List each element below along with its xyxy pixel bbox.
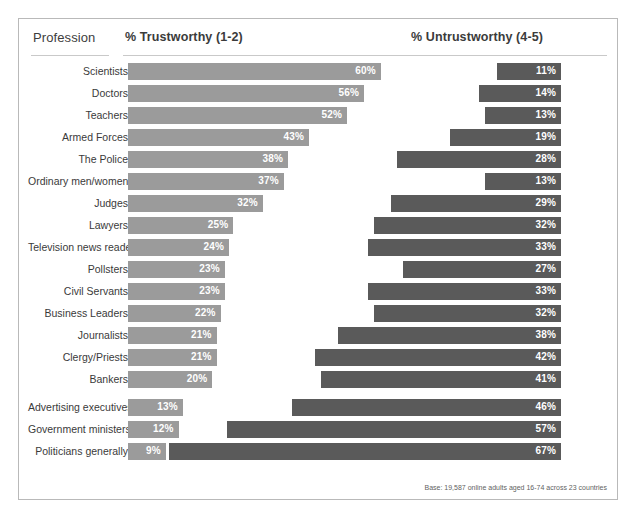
- bar-value-trustworthy: 21%: [191, 329, 212, 340]
- row-label-profession: Politicians generally: [28, 444, 128, 459]
- bar-untrustworthy: 11%: [497, 63, 561, 80]
- bar-untrustworthy: 13%: [485, 173, 561, 190]
- chart-row: Government ministers12%57%: [19, 419, 617, 441]
- bar-untrustworthy: 67%: [169, 443, 561, 460]
- bar-value-untrustworthy: 38%: [535, 329, 556, 340]
- bar-value-untrustworthy: 32%: [535, 219, 556, 230]
- bar-untrustworthy: 42%: [315, 349, 561, 366]
- row-label-profession: Journalists: [28, 328, 128, 343]
- bar-value-trustworthy: 32%: [237, 197, 258, 208]
- bar-value-trustworthy: 52%: [322, 109, 343, 120]
- chart-row: The Police38%28%: [19, 149, 617, 171]
- chart-row: Judges32%29%: [19, 193, 617, 215]
- bar-value-trustworthy: 12%: [153, 423, 174, 434]
- row-label-profession: Pollsters: [28, 262, 128, 277]
- bar-untrustworthy: 19%: [450, 129, 561, 146]
- bar-value-untrustworthy: 41%: [535, 373, 556, 384]
- row-label-profession: Teachers: [28, 108, 128, 123]
- bar-value-untrustworthy: 27%: [535, 263, 556, 274]
- bar-value-untrustworthy: 33%: [535, 241, 556, 252]
- bar-trustworthy: 25%: [128, 217, 233, 234]
- bar-value-untrustworthy: 46%: [535, 401, 556, 412]
- header-divider-right: [123, 55, 607, 56]
- bar-value-untrustworthy: 29%: [535, 197, 556, 208]
- bar-trustworthy: 22%: [128, 305, 221, 322]
- bar-value-trustworthy: 38%: [263, 153, 284, 164]
- bar-value-trustworthy: 13%: [157, 401, 178, 412]
- row-label-profession: Bankers: [28, 372, 128, 387]
- bar-untrustworthy: 29%: [391, 195, 561, 212]
- bar-trustworthy: 60%: [128, 63, 381, 80]
- chart-row: Bankers20%41%: [19, 369, 617, 391]
- chart-row: Lawyers25%32%: [19, 215, 617, 237]
- chart-row: Pollsters23%27%: [19, 259, 617, 281]
- row-label-profession: Armed Forces: [28, 130, 128, 145]
- bar-untrustworthy: 57%: [227, 421, 561, 438]
- chart-row: Politicians generally9%67%: [19, 441, 617, 463]
- bar-value-trustworthy: 9%: [146, 445, 161, 456]
- bar-value-trustworthy: 37%: [258, 175, 279, 186]
- chart-row: Teachers52%13%: [19, 105, 617, 127]
- bar-value-untrustworthy: 28%: [535, 153, 556, 164]
- bar-value-untrustworthy: 13%: [535, 175, 556, 186]
- bar-untrustworthy: 28%: [397, 151, 561, 168]
- bar-trustworthy: 23%: [128, 261, 225, 278]
- bar-value-untrustworthy: 57%: [535, 423, 556, 434]
- bar-value-trustworthy: 24%: [204, 241, 225, 252]
- row-label-profession: Doctors: [28, 86, 128, 101]
- bar-value-trustworthy: 60%: [355, 65, 376, 76]
- chart-row: Ordinary men/women37%13%: [19, 171, 617, 193]
- bar-value-trustworthy: 56%: [338, 87, 359, 98]
- column-header-untrustworthy: % Untrustworthy (4-5): [411, 30, 543, 44]
- bar-untrustworthy: 38%: [338, 327, 561, 344]
- row-label-profession: Scientists: [28, 64, 128, 79]
- bar-value-untrustworthy: 13%: [535, 109, 556, 120]
- chart-row: Business Leaders22%32%: [19, 303, 617, 325]
- row-label-profession: Civil Servants: [28, 284, 128, 299]
- chart-row: Advertising executives13%46%: [19, 397, 617, 419]
- bar-value-trustworthy: 22%: [195, 307, 216, 318]
- bar-trustworthy: 52%: [128, 107, 347, 124]
- bar-trustworthy: 20%: [128, 371, 212, 388]
- bar-untrustworthy: 41%: [321, 371, 561, 388]
- bar-trustworthy: 38%: [128, 151, 288, 168]
- bar-untrustworthy: 33%: [368, 239, 561, 256]
- header-divider-left: [31, 55, 109, 56]
- bar-trustworthy: 21%: [128, 327, 217, 344]
- row-label-profession: Advertising executives: [28, 400, 128, 415]
- row-label-profession: Lawyers: [28, 218, 128, 233]
- bar-untrustworthy: 32%: [374, 305, 561, 322]
- bar-trustworthy: 23%: [128, 283, 225, 300]
- bar-untrustworthy: 27%: [403, 261, 561, 278]
- column-header-trustworthy: % Trustworthy (1-2): [125, 30, 243, 44]
- bar-trustworthy: 13%: [128, 399, 183, 416]
- row-label-profession: Television news readers: [28, 240, 128, 255]
- bar-value-trustworthy: 21%: [191, 351, 212, 362]
- chart-row: Clergy/Priests21%42%: [19, 347, 617, 369]
- chart-row: Armed Forces43%19%: [19, 127, 617, 149]
- bar-value-untrustworthy: 33%: [535, 285, 556, 296]
- bar-trustworthy: 24%: [128, 239, 229, 256]
- bar-value-trustworthy: 23%: [199, 285, 220, 296]
- bar-trustworthy: 56%: [128, 85, 364, 102]
- bar-untrustworthy: 33%: [368, 283, 561, 300]
- bar-value-trustworthy: 23%: [199, 263, 220, 274]
- bar-value-untrustworthy: 42%: [535, 351, 556, 362]
- bar-trustworthy: 21%: [128, 349, 217, 366]
- bar-untrustworthy: 13%: [485, 107, 561, 124]
- bar-trustworthy: 32%: [128, 195, 263, 212]
- row-label-profession: Judges: [28, 196, 128, 211]
- chart-row: Doctors56%14%: [19, 83, 617, 105]
- bar-trustworthy: 12%: [128, 421, 179, 438]
- chart-row: Television news readers24%33%: [19, 237, 617, 259]
- bar-value-untrustworthy: 32%: [535, 307, 556, 318]
- bar-value-trustworthy: 43%: [284, 131, 305, 142]
- row-label-profession: The Police: [28, 152, 128, 167]
- bar-value-trustworthy: 25%: [208, 219, 229, 230]
- bar-value-untrustworthy: 14%: [535, 87, 556, 98]
- bar-trustworthy: 9%: [128, 443, 166, 460]
- column-header-profession: Profession: [33, 30, 95, 45]
- chart-rows: Scientists60%11%Doctors56%14%Teachers52%…: [19, 61, 617, 463]
- chart-row: Scientists60%11%: [19, 61, 617, 83]
- bar-untrustworthy: 32%: [374, 217, 561, 234]
